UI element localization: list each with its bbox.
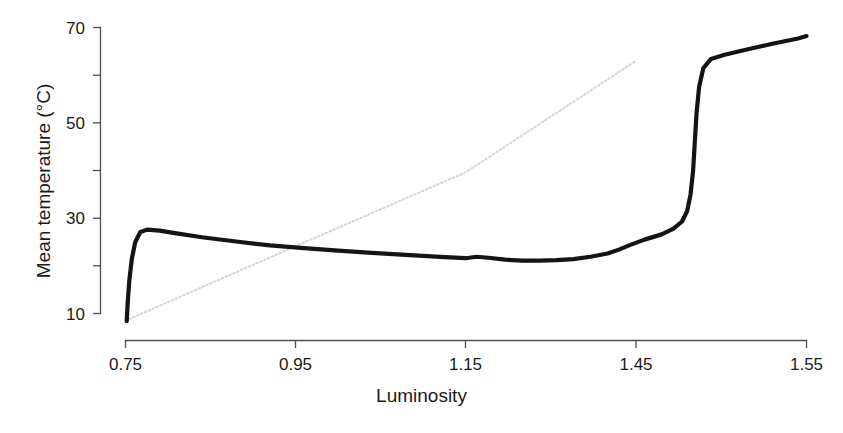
x-tick-label-1-15: 1.15 [449, 355, 482, 374]
y-tick-label-70: 70 [66, 19, 85, 38]
chart-plot-area: 70 50 30 10 0.75 0.95 1.15 1.45 1.55 [0, 0, 843, 433]
y-tick-label-50: 50 [66, 114, 85, 133]
y-tick-label-30: 30 [66, 209, 85, 228]
x-tick-label-1-45: 1.45 [619, 355, 652, 374]
x-tick-label-1-55: 1.55 [790, 355, 823, 374]
y-axis-label: Mean temperature (°C) [33, 41, 55, 321]
x-tick-label-0-75: 0.75 [109, 355, 142, 374]
chart-figure: 70 50 30 10 0.75 0.95 1.15 1.45 1.55 Mea… [0, 0, 843, 433]
x-tick-label-0-95: 0.95 [279, 355, 312, 374]
x-axis-label: Luminosity [0, 385, 843, 407]
x-axis-ticks [126, 341, 807, 349]
y-axis-ticks [93, 28, 101, 314]
mean-temperature-series [127, 36, 807, 321]
y-tick-label-10: 10 [66, 305, 85, 324]
reference-line-series [126, 61, 637, 321]
